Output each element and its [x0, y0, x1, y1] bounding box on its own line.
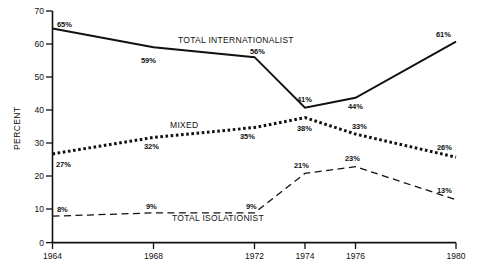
x-tick-label-1980: 1980 — [437, 252, 475, 261]
x-tick-label-1974: 1974 — [286, 252, 324, 261]
y-tick-label-0: 0 — [28, 239, 44, 248]
point-label-isol-1968: 9% — [146, 203, 157, 211]
point-label-mixed-1976: 33% — [352, 123, 367, 131]
point-label-isol-1976: 23% — [345, 155, 360, 163]
y-tick-label-50: 50 — [28, 73, 44, 82]
point-label-mixed-1974: 38% — [297, 125, 312, 133]
y-axis-title: PERCENT — [13, 100, 22, 156]
x-tick-label-1968: 1968 — [135, 252, 173, 261]
series-label-mixed: MIXED — [170, 121, 198, 130]
y-tick-label-60: 60 — [28, 40, 44, 49]
point-label-mixed-1964: 27% — [56, 161, 71, 169]
line-chart: 70 60 50 40 30 20 10 0 PERCENT 1964 1968… — [0, 0, 482, 271]
point-label-intl-1974: 41% — [297, 96, 312, 104]
point-label-mixed-1980: 26% — [437, 144, 452, 152]
point-label-isol-1964: 8% — [57, 206, 68, 214]
y-tick-label-70: 70 — [28, 7, 44, 16]
point-label-isol-1974: 21% — [294, 162, 309, 170]
y-tick-label-40: 40 — [28, 106, 44, 115]
point-label-mixed-1968: 32% — [144, 143, 159, 151]
point-label-mixed-1972: 35% — [240, 133, 255, 141]
point-label-intl-1968: 59% — [141, 57, 156, 65]
series-label-isolationist: TOTAL ISOLATIONIST — [172, 214, 264, 223]
point-label-intl-1964: 65% — [57, 21, 72, 29]
x-axis-ticks — [53, 243, 457, 249]
point-label-isol-1972: 9% — [246, 203, 257, 211]
series-label-internationalist: TOTAL INTERNATIONALIST — [178, 36, 294, 45]
x-tick-label-1976: 1976 — [337, 252, 375, 261]
point-label-intl-1976: 44% — [348, 103, 363, 111]
y-tick-label-30: 30 — [28, 139, 44, 148]
point-label-intl-1972: 56% — [250, 48, 265, 56]
x-tick-label-1972: 1972 — [236, 252, 274, 261]
point-label-isol-1980: 13% — [437, 187, 452, 195]
x-tick-label-1964: 1964 — [34, 252, 72, 261]
y-tick-label-20: 20 — [28, 172, 44, 181]
y-tick-label-10: 10 — [28, 205, 44, 214]
y-axis-ticks — [46, 11, 53, 243]
point-label-intl-1980: 61% — [436, 31, 451, 39]
